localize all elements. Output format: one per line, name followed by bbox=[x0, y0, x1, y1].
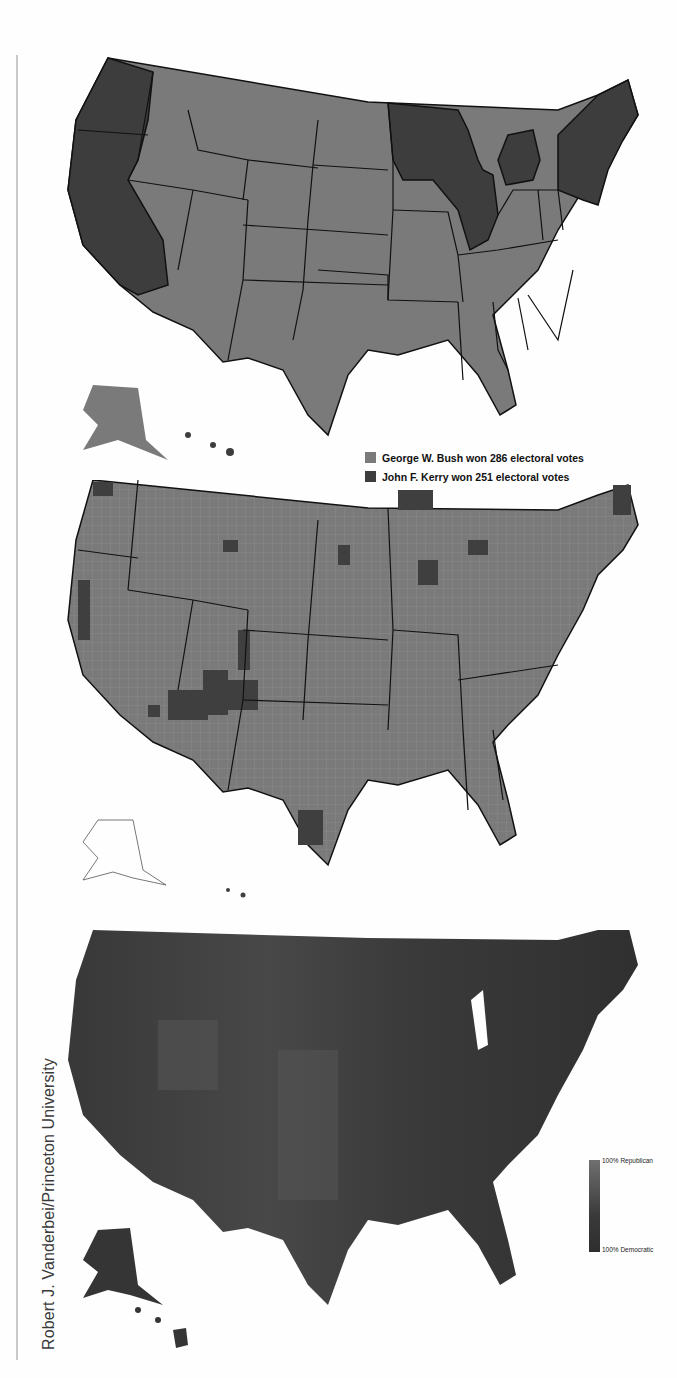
county-results-map bbox=[38, 480, 658, 900]
hawaii-gradient bbox=[135, 1307, 188, 1348]
northeast-kerry bbox=[558, 80, 638, 205]
bush-swatch bbox=[365, 452, 376, 463]
legend-label-republican: 100% Republican bbox=[602, 1157, 653, 1164]
gradient-legend-bar bbox=[589, 1160, 600, 1252]
legend-item-bush: George W. Bush won 286 electoral votes bbox=[365, 448, 584, 467]
alaska-bush bbox=[83, 385, 168, 460]
margin-rule bbox=[16, 55, 18, 1360]
contiguous-us-gradient bbox=[68, 930, 638, 1305]
legend-label-bush: George W. Bush won 286 electoral votes bbox=[382, 452, 584, 464]
alaska-outline bbox=[83, 820, 166, 885]
hawaii-kerry bbox=[185, 432, 263, 460]
state-results-map bbox=[38, 40, 658, 460]
legend-label-democratic: 100% Democratic bbox=[602, 1246, 653, 1253]
hawaii-counties bbox=[226, 888, 266, 900]
county-gradient-map bbox=[38, 930, 658, 1350]
contiguous-us-counties bbox=[68, 480, 638, 865]
alaska-gradient bbox=[83, 1228, 163, 1305]
photo-credit: Robert J. Vanderbei/Princeton University bbox=[40, 1058, 58, 1350]
